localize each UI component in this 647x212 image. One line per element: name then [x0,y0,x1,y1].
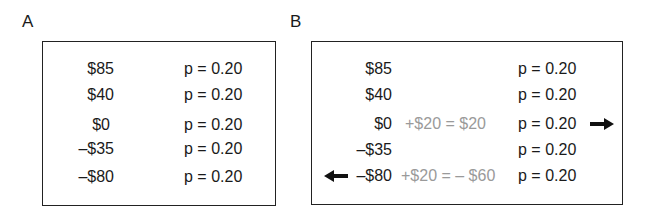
panel-b-label: B [290,12,301,32]
panel-a-amount: –$80 [44,168,114,186]
panel-a-prob: p = 0.20 [184,60,242,78]
panel-b-prob: p = 0.20 [518,60,576,78]
panel-a-amount: $0 [40,116,110,134]
arrow-right-icon [590,118,614,130]
panel-a-prob: p = 0.20 [184,168,242,186]
panel-b-amount: $85 [322,60,392,78]
panel-b-amount: $0 [322,115,392,133]
panel-b-prob: p = 0.20 [518,141,576,159]
panel-a-prob: p = 0.20 [184,116,242,134]
panel-b-prob: p = 0.20 [518,167,576,185]
panel-a-amount: $40 [44,86,114,104]
panel-b-amount: –$35 [322,141,392,159]
panel-b-amount: $40 [322,86,392,104]
panel-b-adjustment: +$20 = $20 [405,115,486,133]
panel-b-prob: p = 0.20 [518,86,576,104]
panel-a-label: A [22,12,33,32]
panel-b-adjustment: +$20 = – $60 [401,167,495,185]
panel-b-prob: p = 0.20 [518,115,576,133]
panel-a-amount: $85 [44,60,114,78]
panel-a-amount: –$35 [44,140,114,158]
panel-a-prob: p = 0.20 [184,140,242,158]
panel-a-prob: p = 0.20 [184,86,242,104]
panel-b-amount: –$80 [322,167,392,185]
